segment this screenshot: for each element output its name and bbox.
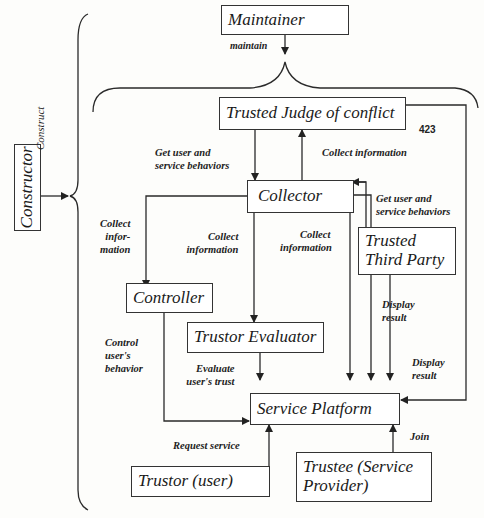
trust-architecture-diagram: Maintainer Constructor Trusted Judge of … xyxy=(0,0,484,518)
edge-label-line: behavior xyxy=(105,362,143,375)
edge-label-collect-info-judge: Collect information xyxy=(322,146,407,159)
edge-label-get-behaviors-right: Get user and service behaviors xyxy=(376,192,450,218)
edge-label-line: mation xyxy=(96,243,130,256)
edge-label-line: user's trust xyxy=(186,375,235,388)
trustee-label-1: Trustee (Service xyxy=(303,458,413,477)
maintainer-node: Maintainer xyxy=(221,5,349,35)
constructor-node: Constructor xyxy=(14,144,41,231)
edge-label-collect-info-evaluator: Collect information xyxy=(186,230,238,256)
edge-label-line: service behaviors xyxy=(155,159,229,172)
collector-label: Collector xyxy=(258,187,322,206)
edge-label-control: Control user's behavior xyxy=(105,336,143,375)
edge-label-evaluate: Evaluate user's trust xyxy=(186,362,235,388)
controller-label: Controller xyxy=(133,289,204,308)
service-platform-node: Service Platform xyxy=(250,393,400,425)
edge-label-line: Get user and xyxy=(376,192,450,205)
edge-label-maintain: maintain xyxy=(230,40,267,53)
maintainer-label: Maintainer xyxy=(228,11,305,30)
trustee-label-2: Provider) xyxy=(303,477,368,496)
collector-node: Collector xyxy=(247,180,354,213)
edge-label-line: infor- xyxy=(96,230,130,243)
constructor-label: Constructor xyxy=(18,146,37,228)
page-number: 423 xyxy=(419,124,436,135)
trusted-third-party-label-2: Third Party xyxy=(365,251,444,270)
edge-label-line: Display xyxy=(382,298,415,311)
edge-label-get-behaviors-left: Get user and service behaviors xyxy=(155,146,229,172)
edge-label-request-service: Request service xyxy=(173,439,240,452)
edge-label-line: information xyxy=(186,243,238,256)
trusted-third-party-label-1: Trusted xyxy=(365,232,416,251)
edge-label-collect-infor: Collect infor- mation xyxy=(96,217,130,256)
edge-label-line: Display xyxy=(412,356,445,369)
edge-label-construct: Construct xyxy=(34,107,48,150)
service-platform-label: Service Platform xyxy=(257,400,372,419)
edge-label-line: Collect xyxy=(280,228,332,241)
trusted-judge-node: Trusted Judge of conflict xyxy=(219,97,406,130)
edge-label-collect-info-platform: Collect information xyxy=(280,228,332,254)
trustor-node: Trustor (user) xyxy=(131,466,270,497)
edge-label-line: information xyxy=(280,241,332,254)
trusted-third-party-node: Trusted Third Party xyxy=(358,227,456,275)
edge-label-line: result xyxy=(412,369,445,382)
edge-label-line: service behaviors xyxy=(376,205,450,218)
edge-label-join: Join xyxy=(410,430,429,443)
trustor-label: Trustor (user) xyxy=(138,472,233,491)
trustee-node: Trustee (Service Provider) xyxy=(296,452,432,502)
edge-label-display-result-judge: Display result xyxy=(412,356,445,382)
controller-node: Controller xyxy=(126,283,213,313)
trusted-judge-label: Trusted Judge of conflict xyxy=(226,104,395,123)
edge-label-line: Evaluate xyxy=(186,362,235,375)
edge-label-display-result-ttp: Display result xyxy=(382,298,415,324)
edge-label-line: Collect xyxy=(96,217,130,230)
trustor-evaluator-label: Trustor Evaluator xyxy=(194,328,316,347)
edge-label-line: Control xyxy=(105,336,143,349)
trustor-evaluator-node: Trustor Evaluator xyxy=(187,322,324,353)
edge-label-line: user's xyxy=(105,349,143,362)
edge-label-line: Collect xyxy=(186,230,238,243)
edge-label-line: result xyxy=(382,311,415,324)
edge-label-line: Get user and xyxy=(155,146,229,159)
